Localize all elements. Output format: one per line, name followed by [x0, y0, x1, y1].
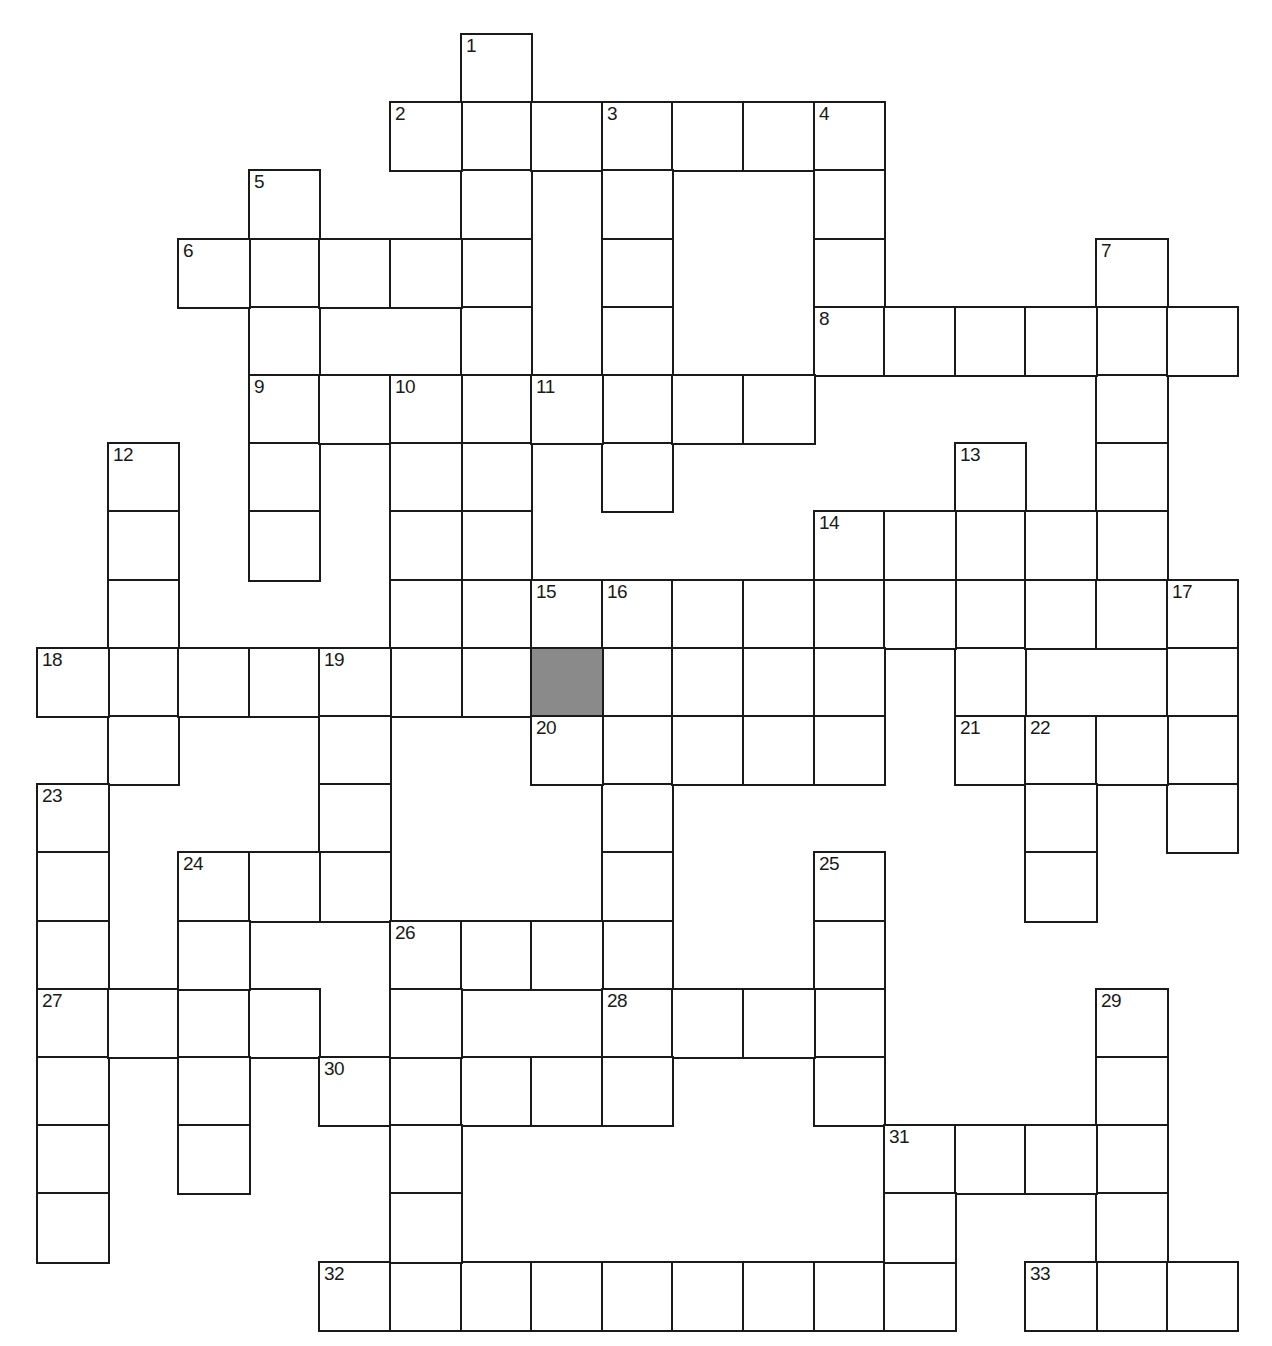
grid-cell[interactable]	[601, 306, 674, 377]
grid-cell[interactable]	[177, 1124, 251, 1195]
grid-cell[interactable]: 1	[460, 33, 533, 104]
grid-cell[interactable]	[601, 647, 674, 718]
grid-cell[interactable]	[671, 579, 745, 650]
grid-cell[interactable]	[107, 988, 180, 1059]
grid-cell[interactable]	[601, 920, 674, 991]
grid-cell[interactable]: 7	[1095, 238, 1169, 309]
grid-cell[interactable]	[248, 306, 321, 377]
grid-cell[interactable]: 9	[248, 374, 321, 445]
grid-cell[interactable]	[601, 1056, 674, 1127]
grid-cell[interactable]	[813, 1261, 886, 1332]
grid-cell[interactable]	[248, 851, 321, 923]
grid-cell[interactable]	[248, 988, 321, 1059]
grid-cell[interactable]: 20	[530, 715, 604, 786]
grid-cell[interactable]	[318, 238, 392, 309]
grid-cell[interactable]: 3	[601, 101, 674, 172]
grid-cell[interactable]	[36, 920, 110, 991]
grid-cell[interactable]	[1095, 579, 1169, 650]
grid-cell[interactable]: 11	[530, 374, 604, 445]
grid-cell[interactable]	[36, 851, 110, 923]
grid-cell[interactable]	[742, 988, 816, 1059]
grid-cell[interactable]	[177, 920, 251, 991]
grid-cell[interactable]: 29	[1095, 988, 1169, 1059]
grid-cell[interactable]	[389, 238, 463, 309]
grid-cell[interactable]	[460, 579, 533, 650]
grid-cell[interactable]	[1095, 442, 1169, 513]
grid-cell[interactable]	[460, 510, 533, 582]
grid-cell[interactable]: 26	[389, 920, 463, 991]
grid-cell[interactable]	[813, 988, 886, 1059]
grid-cell[interactable]	[671, 715, 745, 786]
grid-cell[interactable]	[1095, 510, 1169, 582]
grid-cell[interactable]: 8	[813, 306, 886, 377]
grid-cell[interactable]	[389, 1124, 463, 1195]
grid-cell[interactable]: 21	[954, 715, 1027, 786]
grid-cell[interactable]	[389, 1261, 463, 1332]
grid-cell[interactable]	[1095, 1056, 1169, 1127]
grid-cell[interactable]	[601, 442, 674, 513]
grid-cell[interactable]	[1166, 647, 1239, 718]
grid-cell[interactable]	[954, 647, 1027, 718]
grid-cell[interactable]	[107, 579, 180, 650]
grid-cell[interactable]	[671, 988, 745, 1059]
grid-cell[interactable]	[671, 647, 745, 718]
grid-cell[interactable]	[742, 101, 816, 172]
grid-cell[interactable]	[813, 715, 886, 786]
grid-cell[interactable]	[389, 510, 463, 582]
grid-cell[interactable]	[1024, 510, 1098, 582]
grid-cell[interactable]	[248, 510, 321, 582]
grid-cell[interactable]: 18	[36, 647, 110, 718]
grid-cell[interactable]: 28	[601, 988, 674, 1059]
grid-cell[interactable]	[1095, 374, 1169, 445]
grid-cell[interactable]	[177, 647, 251, 718]
grid-cell[interactable]: 27	[36, 988, 110, 1059]
grid-cell[interactable]	[813, 238, 886, 309]
grid-cell[interactable]	[671, 374, 745, 445]
grid-cell[interactable]	[460, 920, 533, 991]
grid-cell[interactable]	[1166, 1261, 1239, 1332]
grid-cell[interactable]	[389, 1056, 463, 1127]
grid-cell[interactable]	[813, 647, 886, 718]
grid-cell[interactable]	[1166, 306, 1239, 377]
grid-cell[interactable]	[671, 101, 745, 172]
grid-cell[interactable]: 19	[318, 647, 392, 718]
grid-cell[interactable]	[601, 1261, 674, 1332]
grid-cell[interactable]	[318, 715, 392, 786]
grid-cell[interactable]	[1024, 783, 1098, 854]
grid-cell[interactable]	[1095, 306, 1169, 377]
grid-cell[interactable]	[1024, 579, 1098, 650]
grid-cell[interactable]	[883, 579, 957, 650]
grid-cell[interactable]	[177, 988, 251, 1059]
grid-cell[interactable]	[177, 1056, 251, 1127]
grid-cell[interactable]: 17	[1166, 579, 1239, 650]
grid-cell[interactable]	[883, 1192, 957, 1264]
grid-cell[interactable]	[460, 442, 533, 513]
grid-cell[interactable]	[248, 442, 321, 513]
grid-cell[interactable]	[248, 238, 321, 309]
grid-cell[interactable]	[883, 306, 957, 377]
grid-cell[interactable]	[1024, 306, 1098, 377]
grid-cell[interactable]	[954, 510, 1027, 582]
grid-cell[interactable]	[1024, 851, 1098, 923]
grid-cell[interactable]	[530, 1056, 604, 1127]
grid-cell[interactable]: 33	[1024, 1261, 1098, 1332]
grid-cell[interactable]: 24	[177, 851, 251, 923]
grid-cell[interactable]: 16	[601, 579, 674, 650]
grid-cell[interactable]	[530, 1261, 604, 1332]
grid-cell[interactable]: 32	[318, 1261, 392, 1332]
grid-cell[interactable]	[107, 647, 180, 718]
grid-cell[interactable]	[107, 510, 180, 582]
grid-cell[interactable]	[460, 101, 533, 172]
grid-cell[interactable]: 5	[248, 169, 321, 241]
grid-cell[interactable]	[460, 647, 533, 718]
grid-cell[interactable]: 15	[530, 579, 604, 650]
grid-cell[interactable]	[813, 579, 886, 650]
grid-cell[interactable]: 4	[813, 101, 886, 172]
grid-cell[interactable]	[742, 647, 816, 718]
grid-cell[interactable]	[883, 510, 957, 582]
grid-cell[interactable]	[389, 442, 463, 513]
grid-cell[interactable]	[36, 1056, 110, 1127]
grid-cell[interactable]	[389, 1192, 463, 1264]
grid-cell[interactable]	[460, 306, 533, 377]
grid-cell[interactable]	[107, 715, 180, 786]
